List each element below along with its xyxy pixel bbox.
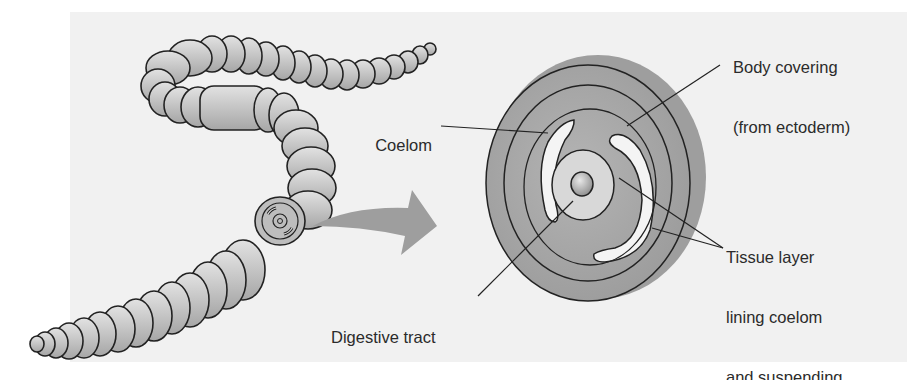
label-coelom: Coelom	[366, 115, 432, 155]
label-digestive-tract: Digestive tract (from endoderm)	[331, 287, 454, 380]
cross-section-diagram	[486, 55, 706, 301]
earthworm-lower-body	[30, 240, 265, 359]
label-digestive-line1: Digestive tract	[331, 327, 454, 347]
worm-cut-end	[255, 197, 305, 245]
label-tissue-line1: Tissue layer	[726, 247, 853, 267]
label-tissue-line2: lining coelom	[726, 307, 853, 327]
label-body-covering: Body covering (from ectoderm)	[733, 17, 850, 157]
label-body-covering-line2: (from ectoderm)	[733, 117, 850, 137]
label-tissue-layer: Tissue layer lining coelom and suspendin…	[726, 207, 853, 380]
label-tissue-line3: and suspending	[726, 367, 853, 380]
label-coelom-text: Coelom	[375, 136, 432, 154]
label-body-covering-line1: Body covering	[733, 57, 850, 77]
